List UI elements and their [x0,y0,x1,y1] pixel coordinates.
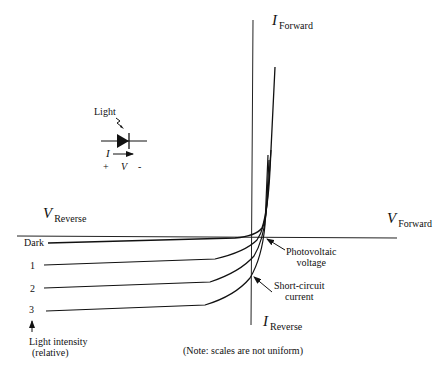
minus-label: - [138,161,141,172]
short-circuit-line1: Short-circuit [274,280,325,291]
v-reverse-subscript: Reverse [54,213,86,224]
iv-curve-diagram [0,0,447,369]
photovoltaic-arrow [267,239,285,250]
v-reverse-symbol: V [43,205,52,221]
voltage-axis [17,236,397,238]
i-reverse-symbol: I [263,313,268,329]
v-reverse-label: VReverse [43,208,86,220]
i-reverse-label: IReverse [263,316,302,328]
photovoltaic-line1: Photovoltaic [286,246,337,257]
light-label: Light [94,106,116,117]
current-symbol-label: I [106,148,110,159]
short-circuit-arrow [254,277,272,292]
curve-label-dark: Dark [24,237,44,248]
short-circuit-current-label: Short-circuit current [274,280,325,302]
voltage-symbol-label: V [121,161,127,172]
current-axis [251,20,253,325]
v-forward-label: VForward [387,213,432,225]
light-intensity-label: Light intensity (relative) [29,336,88,358]
curve-label-2: 2 [30,283,35,294]
curve-label-3: 3 [29,304,34,315]
short-circuit-line2: current [274,291,325,302]
plus-label: + [103,161,109,172]
v-forward-symbol: V [387,210,396,226]
i-forward-label: IForward [272,15,313,27]
i-forward-subscript: Forward [279,20,313,31]
curve-2 [44,160,269,288]
light-intensity-line2: (relative) [29,347,88,358]
photovoltaic-voltage-label: Photovoltaic voltage [286,246,337,268]
i-forward-symbol: I [272,12,277,28]
curve-3 [46,155,268,311]
photovoltaic-line2: voltage [286,257,337,268]
scale-note: (Note: scales are not uniform) [183,345,303,356]
curve-label-1: 1 [30,260,35,271]
i-reverse-subscript: Reverse [270,321,302,332]
light-intensity-line1: Light intensity [29,336,88,347]
v-forward-subscript: Forward [398,218,432,229]
